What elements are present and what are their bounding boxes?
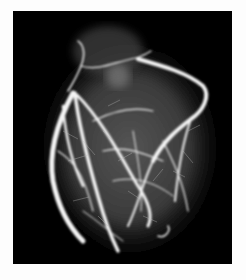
heart-vessels-drawing (13, 11, 232, 264)
angiogram-image: Coronary angiogram of a heart (13, 11, 232, 264)
